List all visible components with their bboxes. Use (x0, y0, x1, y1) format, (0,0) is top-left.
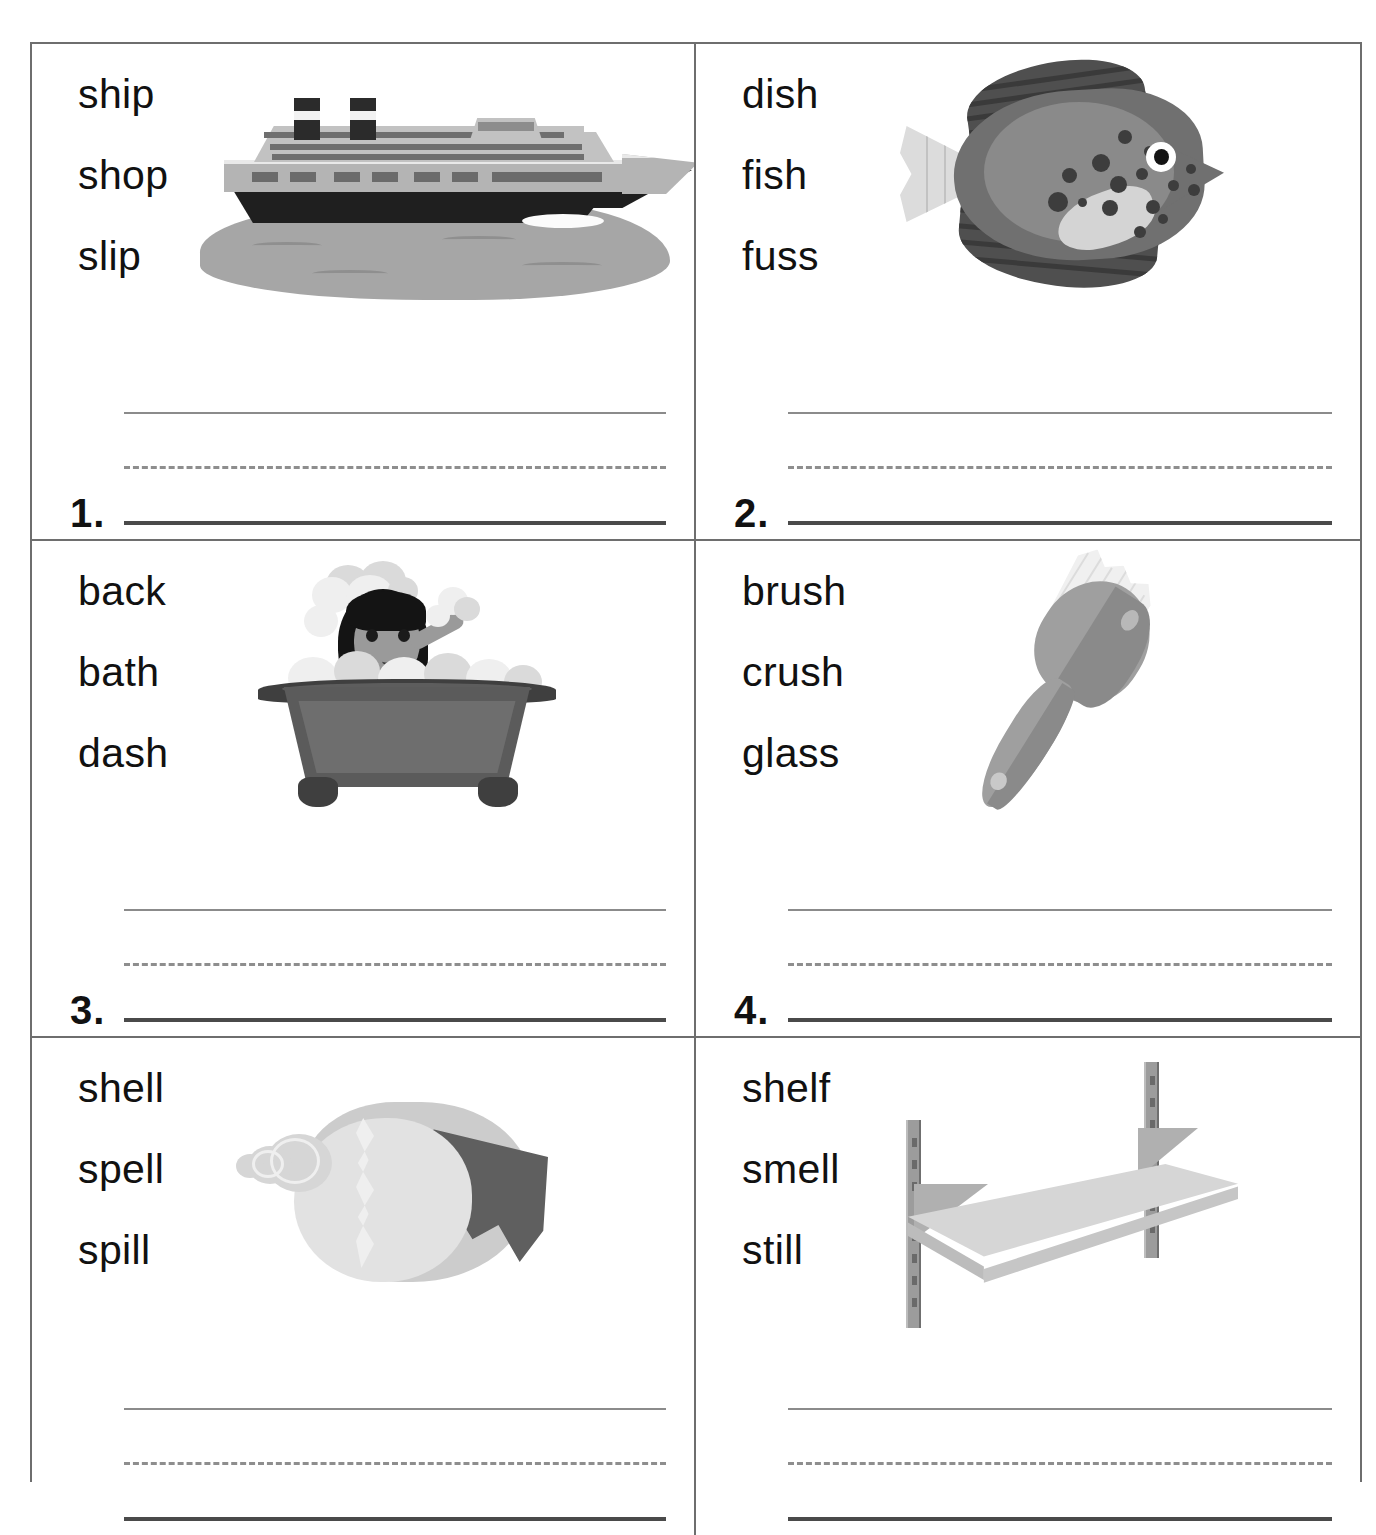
wave-line (442, 236, 516, 243)
word-option[interactable]: fish (742, 155, 819, 196)
rule-top (788, 412, 1332, 414)
worksheet-grid: ship shop slip (30, 42, 1362, 1482)
wave-line (252, 242, 322, 249)
ship-funnel (350, 98, 376, 140)
ship-window (334, 172, 360, 182)
writing-lines-5 (124, 1408, 666, 1521)
fish-eye (1146, 142, 1176, 172)
fish-spot (1062, 168, 1077, 183)
fish-spot (1102, 200, 1118, 216)
ship-window (452, 172, 478, 182)
fish-spot (1110, 176, 1127, 193)
writing-lines-4 (788, 909, 1332, 1022)
rule-dashed-midline (124, 963, 666, 966)
rule-baseline[interactable] (124, 1517, 666, 1521)
word-option[interactable]: fuss (742, 236, 819, 277)
word-option[interactable]: smell (742, 1149, 840, 1190)
rule-baseline[interactable] (788, 521, 1332, 525)
soap-sud (426, 605, 450, 627)
soap-sud (454, 597, 480, 621)
fish-spot (1048, 192, 1068, 212)
writing-lines-2 (788, 412, 1332, 525)
fish-spot (1134, 226, 1146, 238)
word-choices-5: shell spell spill (78, 1068, 164, 1271)
cruise-ship-illustration (192, 92, 682, 307)
writing-lines-6 (788, 1408, 1332, 1521)
wave-line (312, 270, 388, 277)
ship-bridge-window (478, 122, 534, 131)
worksheet-item-1: ship shop slip (32, 44, 696, 541)
fish-spot (1118, 130, 1132, 144)
fish-spot (1186, 164, 1196, 174)
ship-window (252, 172, 278, 182)
writing-lines-1 (124, 412, 666, 525)
fish-spot (1078, 198, 1087, 207)
bathtub-body-shade (294, 701, 520, 773)
fish-spot (1188, 184, 1200, 196)
worksheet-item-3: back bath dash (32, 541, 696, 1038)
word-option[interactable]: dish (742, 74, 819, 115)
girl-eye (398, 629, 410, 642)
ship-window (290, 172, 316, 182)
bathtub-illustration (242, 561, 572, 816)
rule-top (788, 909, 1332, 911)
ship-bow (622, 154, 696, 194)
ship-window-strip (492, 172, 602, 182)
word-option[interactable]: crush (742, 652, 847, 693)
fish-illustration (896, 50, 1256, 300)
fish-spot (1136, 168, 1148, 180)
item-number: 3. (70, 988, 105, 1033)
shell-spire-ring (252, 1150, 284, 1178)
brush-group (929, 548, 1189, 839)
bathtub-foot (298, 777, 338, 807)
wave-line (522, 262, 602, 269)
rule-baseline[interactable] (124, 521, 666, 525)
worksheet-item-2: dish fish fuss (696, 44, 1360, 541)
word-option[interactable]: slip (78, 236, 169, 277)
fish-spot (1158, 214, 1168, 224)
rule-dashed-midline (124, 466, 666, 469)
fish-spot (1092, 154, 1110, 172)
ship-window (414, 172, 440, 182)
fish-spot (1146, 200, 1160, 214)
girl-bangs (346, 591, 426, 631)
word-option[interactable]: shop (78, 155, 169, 196)
word-option[interactable]: brush (742, 571, 847, 612)
ship-deck-line (272, 154, 584, 160)
girl-eye (366, 629, 378, 642)
word-choices-6: shelf smell still (742, 1068, 840, 1271)
word-option[interactable]: dash (78, 733, 169, 774)
rule-baseline[interactable] (788, 1018, 1332, 1022)
fish-pupil (1154, 149, 1169, 165)
word-option[interactable]: spell (78, 1149, 164, 1190)
rule-top (124, 412, 666, 414)
worksheet-item-5: shell spell spill (32, 1038, 696, 1535)
word-option[interactable]: shell (78, 1068, 164, 1109)
rule-dashed-midline (788, 1462, 1332, 1465)
word-option[interactable]: still (742, 1230, 840, 1271)
sea-shell-illustration (232, 1062, 572, 1302)
word-option[interactable]: spill (78, 1230, 164, 1271)
rule-dashed-midline (124, 1462, 666, 1465)
rule-baseline[interactable] (788, 1517, 1332, 1521)
word-choices-3: back bath dash (78, 571, 169, 774)
wall-shelf-illustration (876, 1054, 1256, 1324)
word-option[interactable]: back (78, 571, 169, 612)
item-number: 2. (734, 491, 769, 536)
worksheet-item-4: brush crush glass (696, 541, 1360, 1038)
word-choices-2: dish fish fuss (742, 74, 819, 277)
word-option[interactable]: glass (742, 733, 847, 774)
word-option[interactable]: ship (78, 74, 169, 115)
ship-deck-line (270, 144, 582, 150)
rule-dashed-midline (788, 963, 1332, 966)
word-option[interactable]: bath (78, 652, 169, 693)
rule-baseline[interactable] (124, 1018, 666, 1022)
item-number: 1. (70, 491, 105, 536)
ship-funnel (294, 98, 320, 140)
writing-lines-3 (124, 909, 666, 1022)
hair-brush-illustration (926, 555, 1256, 835)
soap-sud (304, 605, 338, 637)
rule-top (124, 909, 666, 911)
rule-dashed-midline (788, 466, 1332, 469)
word-option[interactable]: shelf (742, 1068, 840, 1109)
